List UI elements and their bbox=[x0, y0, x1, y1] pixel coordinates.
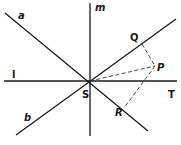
label-a: a bbox=[18, 10, 25, 21]
label-r: R bbox=[115, 107, 123, 118]
label-q: Q bbox=[130, 32, 139, 43]
geometry-diagram: a m Q P l T S R b bbox=[0, 0, 181, 145]
label-m: m bbox=[95, 2, 105, 13]
label-s: S bbox=[82, 89, 89, 100]
label-l: l bbox=[12, 69, 15, 80]
segment-qp bbox=[142, 44, 155, 66]
label-b: b bbox=[24, 112, 31, 123]
line-b bbox=[16, 19, 176, 135]
label-p: P bbox=[157, 62, 165, 73]
label-t: T bbox=[168, 89, 175, 100]
